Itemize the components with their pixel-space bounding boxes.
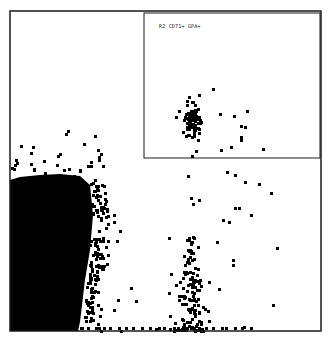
scatter-plot: R2 CD71+ GPA+ bbox=[0, 0, 330, 339]
inset-gate-label: R2 CD71+ GPA+ bbox=[159, 23, 201, 29]
inset-gate-frame bbox=[144, 13, 320, 158]
